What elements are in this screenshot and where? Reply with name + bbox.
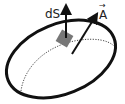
dotted-hidden-curve	[21, 39, 114, 91]
vector-label: A	[99, 8, 108, 22]
area-element-patch	[56, 30, 74, 48]
area-element-label: dS	[45, 7, 60, 21]
surface-integral-diagram: dS A →	[0, 0, 125, 104]
field-vector-arrow	[72, 17, 95, 54]
vector-arrow-accent: →	[99, 1, 106, 10]
